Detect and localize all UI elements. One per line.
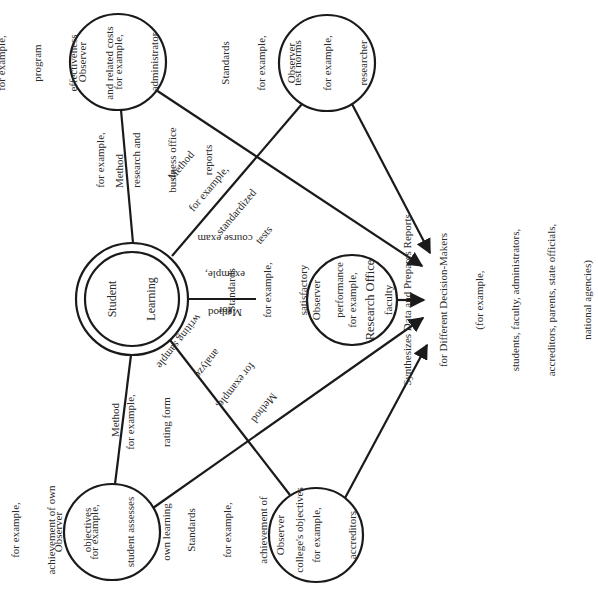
method-line: for example, [124,394,136,450]
observer-line: faculty [382,272,394,328]
standards-line: effectiveness [67,26,79,99]
research-office-line: (for example, [473,214,485,386]
standards-line: for example, [0,26,7,99]
standards-student-label: Standards for example, achievement of ow… [0,485,117,574]
research-office-line: students, faculty, administrators, [509,214,521,386]
standards-administrator-label: Standards for example, program effective… [0,26,139,99]
method-line: for example, [94,127,106,192]
standards-line: and related costs [103,26,115,99]
standards-line: achievement of [257,487,269,572]
standards-line: for example, [255,35,267,91]
standards-line: Standards [219,35,231,91]
standards-line: achievement of own [45,485,57,574]
method-line: course exam [197,233,252,245]
standards-line: test norms [291,35,303,91]
method-line: for [197,305,252,317]
method-line: analyze [183,334,233,393]
research-office-line: accreditors, parents, state officials, [545,214,557,386]
observer-line: accreditors [346,507,358,563]
standards-line: for example, [261,262,273,318]
method-student-detail: for example, rating form [100,394,196,450]
standards-line: satisfactory [297,262,309,318]
method-title: Method [158,140,203,190]
method-title: Method [240,379,290,438]
method-line: example, [197,269,252,281]
standards-line: objectives [81,485,93,574]
observer-line: own learning [160,497,172,568]
method-line: research and [130,127,142,192]
method-line: for example, [186,163,231,213]
method-line: writing sample [154,312,204,371]
standards-line: for example, [221,487,233,572]
method-line: for example, [211,357,261,416]
observer-line: student assesses [124,497,136,568]
student-learning-line: Student [106,277,119,320]
research-office-line: national agencies) [581,214,593,386]
standards-researcher-label: Standards for example, test norms [195,35,327,91]
standards-line: college's objectives [293,487,305,572]
observer-line: administrator [148,33,160,92]
research-office-line: for Different Decision-Makers [437,214,449,386]
standards-line: program [31,26,43,99]
standards-line: performance [333,262,345,318]
standards-line: for example, [9,485,21,574]
student-learning-line: Learning [145,277,158,320]
observer-line: researcher [357,35,369,91]
method-line: rating form [160,394,172,450]
